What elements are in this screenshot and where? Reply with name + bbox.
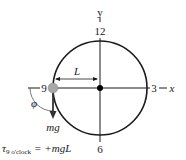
equation-rhs: = +mgL (34, 142, 71, 154)
clock-number-3: 3 (151, 82, 157, 94)
x-axis-label: x (169, 82, 175, 94)
pivot-dot (97, 85, 103, 91)
clock-number-12: 12 (95, 25, 106, 37)
clock-torque-diagram: L φ mg y 12 9 3 x 6 τ9 o'clock= +mgL (0, 0, 186, 160)
y-axis-label: y (97, 6, 103, 18)
clock-number-9: 9 (41, 82, 47, 94)
length-label: L (73, 65, 80, 77)
length-arrowhead-right (93, 77, 98, 81)
length-arrowhead-left (55, 77, 60, 81)
force-arrowhead (50, 111, 57, 119)
mass-ball (48, 83, 58, 93)
torque-equation: τ9 o'clock= +mgL (2, 142, 71, 156)
tau-subscript: 9 o'clock (6, 148, 32, 156)
angle-label: φ (31, 97, 37, 109)
force-label: mg (46, 121, 60, 133)
clock-number-6: 6 (97, 143, 103, 155)
